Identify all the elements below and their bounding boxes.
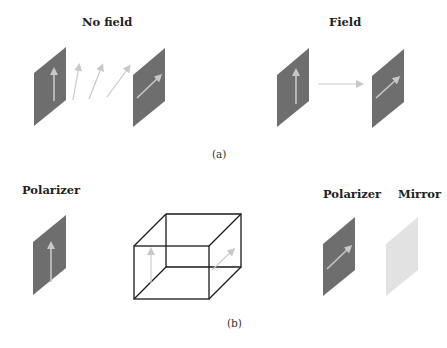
light-arrow-3: [107, 67, 129, 97]
light-arrow-1: [73, 66, 79, 100]
mirror-plate: [386, 217, 418, 296]
polarizer-vertical-plate: [277, 48, 309, 127]
polarizer-vertical-plate: [34, 47, 66, 126]
light-arrow-2: [89, 66, 102, 99]
field-group: [277, 48, 404, 128]
polarizer-vertical-plate: [33, 215, 66, 295]
panel-b-group: [33, 214, 418, 299]
no-field-group: [34, 47, 165, 127]
polarizer-diagonal-plate: [372, 49, 404, 128]
diagram-canvas: [0, 0, 447, 348]
liquid-crystal-cell-cube: [134, 214, 241, 299]
